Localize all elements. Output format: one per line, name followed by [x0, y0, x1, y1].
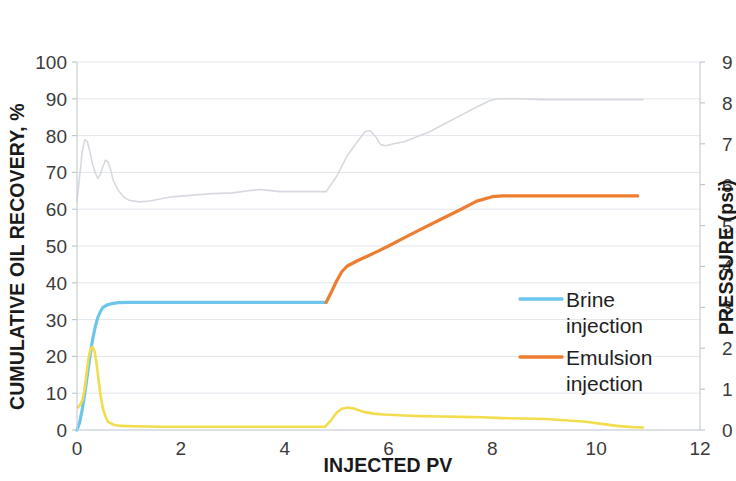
y-tick-label: 20 — [46, 346, 67, 367]
x-tick-label: 10 — [586, 438, 607, 459]
x-tick-label: 8 — [487, 438, 498, 459]
x-axis-title: INJECTED PV — [324, 454, 453, 476]
y-axis-title: CUMULATIVE OIL RECOVERY, % — [6, 103, 28, 410]
legend-label: injection — [566, 372, 643, 395]
y2-tick-label: 1 — [722, 379, 733, 400]
y-tick-label: 100 — [35, 52, 67, 73]
y-tick-label: 50 — [46, 236, 67, 257]
y-tick-label: 40 — [46, 273, 67, 294]
y-tick-label: 0 — [56, 420, 67, 441]
y2-tick-label: 9 — [722, 52, 733, 73]
y-tick-label: 70 — [46, 162, 67, 183]
x-tick-label: 12 — [689, 438, 710, 459]
legend-label: injection — [566, 314, 643, 337]
chart-container: 0102030405060708090100 0123456789 024681… — [0, 0, 736, 481]
y2-tick-label: 0 — [722, 420, 733, 441]
secondary-y-axis-title: PRESSURE (psi) — [715, 180, 736, 335]
legend-label: Brine — [566, 288, 615, 311]
y-tick-label: 80 — [46, 126, 67, 147]
x-tick-label: 2 — [176, 438, 187, 459]
y-tick-label: 60 — [46, 199, 67, 220]
y-tick-label: 30 — [46, 310, 67, 331]
x-tick-label: 4 — [279, 438, 290, 459]
y2-tick-label: 8 — [722, 93, 733, 114]
y2-tick-label: 7 — [722, 134, 733, 155]
chart-background — [0, 0, 736, 481]
oil-recovery-pressure-chart: 0102030405060708090100 0123456789 024681… — [0, 0, 736, 481]
x-tick-label: 0 — [72, 438, 83, 459]
y2-tick-label: 2 — [722, 338, 733, 359]
legend-label: Emulsion — [566, 346, 652, 369]
y-tick-label: 10 — [46, 383, 67, 404]
y-tick-label: 90 — [46, 89, 67, 110]
